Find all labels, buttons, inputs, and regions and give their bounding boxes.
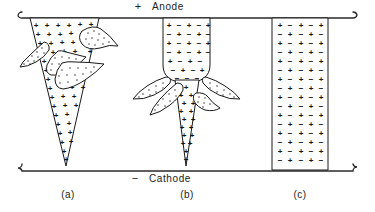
svg-text:+: + <box>64 155 69 164</box>
svg-text:−: − <box>309 21 314 30</box>
svg-text:+: + <box>319 93 324 102</box>
svg-text:+: + <box>67 119 72 128</box>
svg-text:−: − <box>167 30 172 39</box>
svg-text:+: + <box>278 75 283 84</box>
lobe-outline <box>193 93 220 111</box>
svg-text:+: + <box>288 102 293 111</box>
svg-text:+: + <box>47 30 52 39</box>
svg-text:+: + <box>309 66 314 75</box>
svg-text:+: + <box>299 111 304 120</box>
svg-text:−: − <box>319 120 324 129</box>
svg-text:−: − <box>299 102 304 111</box>
svg-text:−: − <box>288 57 293 66</box>
svg-text:+: + <box>288 84 293 93</box>
svg-text:+: + <box>58 129 63 138</box>
svg-text:+: + <box>319 147 324 156</box>
svg-text:−: − <box>288 21 293 30</box>
panel-c-group: +−+−+ −+−+− +−+−+ −+−+− +−+−+ −+−+− +−+−… <box>272 18 328 200</box>
svg-text:+: + <box>206 39 211 48</box>
svg-text:+: + <box>299 57 304 66</box>
svg-text:−: − <box>299 138 304 147</box>
svg-text:−: − <box>299 120 304 129</box>
svg-text:+: + <box>69 29 74 38</box>
svg-text:−: − <box>319 84 324 93</box>
svg-text:−: − <box>278 102 283 111</box>
svg-text:−: − <box>195 74 200 83</box>
svg-text:+: + <box>188 57 193 66</box>
svg-text:−: − <box>278 156 283 165</box>
svg-text:+: + <box>78 20 83 29</box>
svg-text:−: − <box>288 39 293 48</box>
svg-text:−: − <box>309 111 314 120</box>
svg-text:−: − <box>309 39 314 48</box>
svg-text:+: + <box>71 38 76 47</box>
panel-b-caption: (b) <box>180 189 194 200</box>
svg-text:−: − <box>288 129 293 138</box>
svg-text:+: + <box>63 101 68 110</box>
svg-text:−: − <box>187 30 192 39</box>
svg-text:+: + <box>187 39 192 48</box>
panel-a-caption: (a) <box>61 189 75 200</box>
discharge-figure: + Anode − Cathode ++++++ +++++ +++++ +++… <box>0 0 375 212</box>
svg-text:+: + <box>288 138 293 147</box>
svg-text:+: + <box>288 48 293 57</box>
svg-text:−: − <box>197 21 202 30</box>
svg-text:+: + <box>288 120 293 129</box>
lobe-outline <box>202 77 240 99</box>
svg-text:+: + <box>278 147 283 156</box>
svg-text:+: + <box>184 155 189 164</box>
svg-text:+: + <box>278 57 283 66</box>
svg-text:+: + <box>54 111 59 120</box>
svg-text:+: + <box>278 129 283 138</box>
svg-text:−: − <box>309 57 314 66</box>
svg-text:+: + <box>69 137 74 146</box>
svg-text:+: + <box>319 129 324 138</box>
svg-text:+: + <box>56 120 61 129</box>
svg-text:−: − <box>167 48 172 57</box>
svg-text:+: + <box>167 39 172 48</box>
svg-text:+: + <box>278 39 283 48</box>
panel-b-lobe-4 <box>193 93 220 111</box>
svg-text:−: − <box>288 111 293 120</box>
svg-text:−: − <box>278 84 283 93</box>
svg-text:+: + <box>60 138 65 147</box>
svg-text:−: − <box>319 30 324 39</box>
svg-text:+: + <box>61 92 66 101</box>
svg-text:+: + <box>36 30 41 39</box>
svg-text:−: − <box>309 129 314 138</box>
svg-text:+: + <box>299 39 304 48</box>
svg-text:+: + <box>288 30 293 39</box>
cathode-label: Cathode <box>149 173 191 184</box>
anode-label: Anode <box>152 1 184 12</box>
svg-text:−: − <box>177 39 182 48</box>
svg-text:+: + <box>168 57 173 66</box>
panel-c-caption: (c) <box>293 189 306 200</box>
svg-text:+: + <box>278 93 283 102</box>
svg-text:−: − <box>278 66 283 75</box>
panel-b-lobe-2 <box>202 77 240 99</box>
svg-text:+: + <box>48 84 53 93</box>
svg-text:+: + <box>319 57 324 66</box>
svg-text:+: + <box>299 147 304 156</box>
svg-text:+: + <box>34 21 39 30</box>
svg-text:+: + <box>309 84 314 93</box>
svg-text:+: + <box>278 111 283 120</box>
svg-text:+: + <box>56 21 61 30</box>
svg-text:−: − <box>319 156 324 165</box>
svg-text:+: + <box>288 66 293 75</box>
svg-text:+: + <box>65 110 70 119</box>
svg-text:+: + <box>177 48 182 57</box>
panel-a-group: ++++++ +++++ +++++ ++++ ++++ ++++ +++ ++… <box>20 18 118 200</box>
svg-text:−: − <box>309 147 314 156</box>
svg-text:+: + <box>309 156 314 165</box>
svg-text:+: + <box>309 102 314 111</box>
svg-text:−: − <box>299 48 304 57</box>
svg-text:−: − <box>278 48 283 57</box>
lobe-outline <box>80 27 119 49</box>
svg-text:+: + <box>309 138 314 147</box>
svg-text:−: − <box>177 21 182 30</box>
svg-text:−: − <box>288 75 293 84</box>
svg-text:+: + <box>288 156 293 165</box>
anode-polarity-sign: + <box>135 0 141 12</box>
svg-text:−: − <box>299 84 304 93</box>
